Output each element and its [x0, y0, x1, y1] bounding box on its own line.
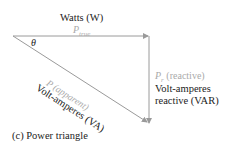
- var-label-line2: reactive (VAR): [155, 95, 219, 106]
- p-true-label: Ptrue: [73, 24, 90, 38]
- caption: (c) Power triangle: [12, 130, 88, 141]
- theta-label: θ: [31, 37, 36, 48]
- p-reactive-label: Pr (reactive): [155, 70, 205, 84]
- watts-label: Watts (W): [60, 12, 103, 23]
- var-label-line1: Volt-amperes: [155, 83, 211, 94]
